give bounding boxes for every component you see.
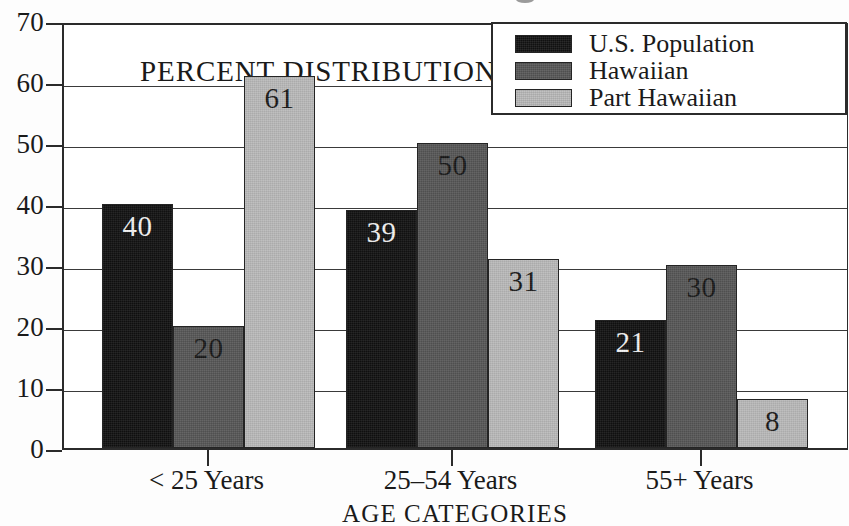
y-axis-tick-label: 70 [0, 9, 44, 36]
x-axis-tick-mark [207, 450, 209, 466]
bar-value-label: 30 [667, 272, 736, 302]
bar-value-label: 20 [174, 333, 243, 363]
y-axis-tick-mark [46, 389, 62, 391]
bar-value-label: 50 [418, 150, 487, 180]
y-axis-tick-mark [46, 145, 62, 147]
y-axis-tick-mark [46, 206, 62, 208]
y-axis-tick-label: 0 [0, 436, 44, 463]
y-axis-tick-mark [46, 267, 62, 269]
bar: 39 [346, 210, 417, 448]
legend-item-label: Part Hawaiian [589, 85, 737, 111]
y-axis-tick-label: 60 [0, 70, 44, 97]
y-axis-tick-label: 40 [0, 192, 44, 219]
y-axis-tick-label: 20 [0, 314, 44, 341]
bar: 21 [595, 320, 666, 448]
y-axis-tick-label: 30 [0, 253, 44, 280]
y-axis-tick-mark [46, 328, 62, 330]
bar-chart-figure: 010203040506070 PERCENT DISTRIBUTION (%)… [0, 0, 849, 526]
y-axis-tick-mark [46, 84, 62, 86]
bar: 20 [173, 326, 244, 448]
bar-value-label: 39 [347, 217, 416, 247]
bar-value-label: 40 [103, 211, 172, 241]
y-axis-tick-mark [46, 450, 62, 452]
legend-item-label: U.S. Population [589, 31, 754, 57]
bar: 61 [244, 76, 315, 448]
bar-value-label: 8 [738, 406, 807, 436]
x-axis-category-label: 25–54 Years [341, 466, 561, 496]
legend-swatch-hawaiian [515, 62, 572, 80]
legend-item: Part Hawaiian [515, 85, 845, 111]
legend-item-label: Hawaiian [589, 58, 689, 84]
legend-swatch-part-hawaiian [515, 89, 572, 107]
legend-item: U.S. Population [515, 31, 845, 57]
legend: U.S. PopulationHawaiianPart Hawaiian [491, 22, 847, 115]
legend-swatch-us-population [515, 35, 572, 53]
y-axis-tick-label: 50 [0, 131, 44, 158]
x-axis-category-label: 55+ Years [590, 466, 810, 496]
bar: 50 [417, 143, 488, 448]
bar-value-label: 21 [596, 327, 665, 357]
y-axis-tick-mark [46, 23, 62, 25]
percent-distribution-label: PERCENT DISTRIBUTION (%) [140, 55, 551, 88]
legend-item: Hawaiian [515, 58, 845, 84]
bar: 30 [666, 265, 737, 448]
bar-value-label: 61 [245, 83, 314, 113]
x-axis-title: AGE CATEGORIES [62, 500, 848, 526]
y-axis-tick-label: 10 [0, 375, 44, 402]
bar-value-label: 31 [489, 266, 558, 296]
bar: 31 [488, 259, 559, 448]
x-axis-category-label: < 25 Years [97, 466, 317, 496]
x-axis-tick-mark [451, 450, 453, 466]
bar: 40 [102, 204, 173, 448]
bar: 8 [737, 399, 808, 448]
x-axis-tick-mark [700, 450, 702, 466]
